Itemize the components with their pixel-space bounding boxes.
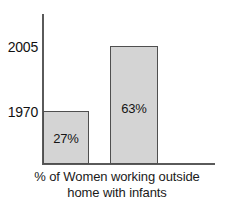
bar-1970: 27% (43, 111, 89, 164)
bar-value-label-1970: 27% (44, 131, 88, 146)
y-axis-tick-label-2005: 2005 (8, 39, 38, 55)
bar-value-label-2005: 63% (111, 101, 157, 116)
y-axis-tick-label-1970: 1970 (8, 104, 38, 120)
bar-chart-figure: 2005 1970 27% 63% % of Women working out… (0, 0, 234, 211)
chart-caption-line-1: % of Women working outside (0, 169, 234, 185)
bar-2005: 63% (110, 46, 158, 164)
chart-caption: % of Women working outside home with inf… (0, 169, 234, 201)
chart-caption-line-2: home with infants (0, 185, 234, 201)
